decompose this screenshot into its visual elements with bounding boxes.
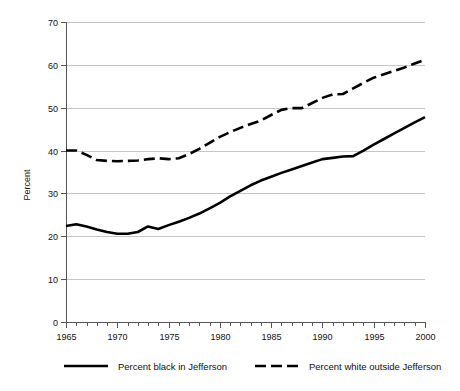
line-chart: 010203040506070 196519701975198019851990…	[0, 0, 460, 391]
legend-label-1: Percent white outside Jefferson	[309, 361, 441, 372]
y-tick-label: 0	[53, 318, 58, 328]
x-tick-label: 1975	[159, 332, 179, 342]
chart-figure: 010203040506070 196519701975198019851990…	[0, 0, 460, 391]
x-tick-label: 1985	[261, 332, 281, 342]
y-tick-label: 30	[48, 189, 58, 199]
y-tick-label: 10	[48, 275, 58, 285]
x-tick-label: 1995	[364, 332, 384, 342]
y-tick-label: 60	[48, 61, 58, 71]
x-tick-label: 1970	[107, 332, 127, 342]
y-tick-label: 70	[48, 18, 58, 28]
x-tick-label: 1965	[56, 332, 76, 342]
y-tick-label: 50	[48, 104, 58, 114]
y-tick-label: 40	[48, 147, 58, 157]
x-tick-label: 1990	[312, 332, 332, 342]
y-tick-label: 20	[48, 232, 58, 242]
x-tick-label: 1980	[210, 332, 230, 342]
legend-label-0: Percent black in Jefferson	[118, 361, 227, 372]
y-axis-title: Percent	[22, 169, 32, 201]
x-tick-label: 2000	[415, 332, 435, 342]
